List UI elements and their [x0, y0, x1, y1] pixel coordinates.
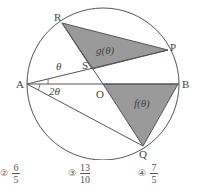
label-f-theta: f(θ) — [134, 97, 150, 110]
angle-2theta-arc — [38, 84, 40, 90]
label-P: P — [170, 41, 176, 53]
choice-number: ③ — [68, 169, 76, 178]
label-A: A — [16, 78, 24, 90]
label-R: R — [54, 11, 62, 23]
label-S: S — [82, 59, 88, 71]
answer-choices: ② 6 5 ③ 13 10 ④ 7 5 — [0, 160, 198, 192]
numerator: 13 — [80, 162, 90, 173]
numerator: 6 — [14, 162, 19, 173]
label-theta: θ — [56, 60, 62, 72]
denominator: 5 — [14, 174, 19, 185]
label-g-theta: g(θ) — [96, 44, 115, 57]
choice-4: ④ 7 5 — [138, 162, 158, 185]
label-B: B — [182, 78, 189, 90]
choice-number: ④ — [138, 169, 146, 178]
numerator: 7 — [152, 162, 157, 173]
fraction: 6 5 — [12, 162, 20, 185]
label-O: O — [96, 88, 104, 100]
label-Q: Q — [139, 148, 147, 160]
fraction: 13 10 — [80, 162, 90, 185]
geometry-diagram: R P A B O Q S θ 2θ g(θ) f(θ) — [0, 0, 198, 160]
choice-number: ② — [0, 169, 8, 178]
denominator: 5 — [152, 174, 157, 185]
choice-2: ② 6 5 — [0, 162, 20, 185]
denominator: 10 — [80, 174, 90, 185]
label-2theta: 2θ — [49, 85, 61, 97]
choice-3: ③ 13 10 — [68, 162, 90, 185]
fraction: 7 5 — [150, 162, 158, 185]
region-f — [103, 84, 178, 146]
